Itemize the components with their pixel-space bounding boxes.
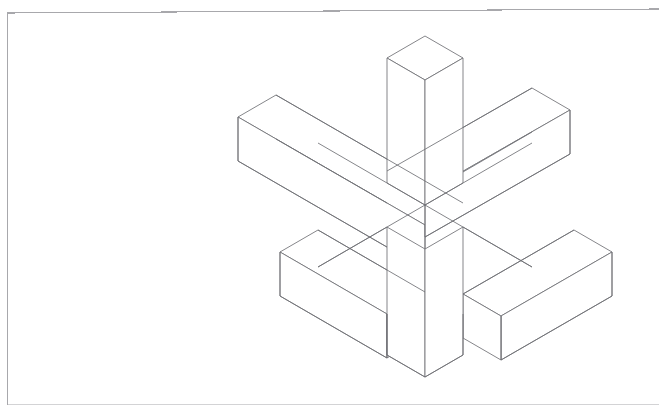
arm-up-left-face [387, 58, 425, 205]
arm-down [387, 227, 463, 377]
star-center-point [424, 204, 425, 205]
arm-down-left-face [387, 227, 425, 377]
arm-up [387, 36, 463, 205]
center-pocket-right [463, 227, 532, 267]
arm-up-right-face [425, 58, 463, 205]
arm-down-right-face [425, 227, 463, 377]
isometric-star-figure [0, 0, 659, 411]
page-border-top-edge [7, 9, 659, 13]
drawing-canvas: Wireframe isometric line drawing of a si… [0, 0, 659, 411]
isometric-six-armed-star [238, 36, 612, 377]
arm-lower-right [463, 230, 612, 360]
